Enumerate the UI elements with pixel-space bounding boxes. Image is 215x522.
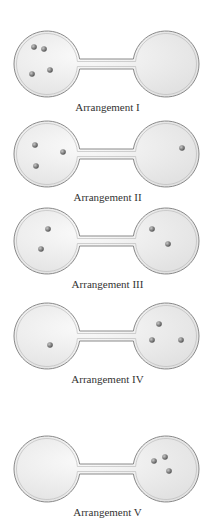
connected-bulbs-diagram: [0, 118, 215, 194]
gas-molecule: [41, 46, 47, 52]
gas-molecule: [179, 145, 185, 151]
glass-vessel: [14, 303, 199, 369]
arrangement-label: Arrangement IV: [0, 373, 215, 385]
gas-molecule: [149, 226, 155, 232]
gas-molecule: [60, 149, 66, 155]
connected-bulbs-diagram: [0, 28, 215, 104]
connected-bulbs-diagram: [0, 433, 215, 509]
gas-molecule: [32, 142, 38, 148]
gas-molecule: [47, 67, 53, 73]
gas-molecule: [166, 468, 172, 474]
gas-molecule: [162, 454, 168, 460]
arrangement-label: Arrangement I: [0, 101, 215, 113]
connected-bulbs-diagram: [0, 205, 215, 281]
arrangement-label: Arrangement III: [0, 278, 215, 290]
gas-molecule: [31, 44, 37, 50]
gas-molecule: [45, 226, 51, 232]
glass-vessel: [14, 121, 199, 187]
arrangement-panel: Arrangement IV: [0, 300, 215, 390]
arrangement-panel: Arrangement III: [0, 205, 215, 295]
gas-molecule: [151, 458, 157, 464]
arrangement-panel: Arrangement I: [0, 28, 215, 118]
gas-molecule: [165, 241, 171, 247]
glass-vessel: [14, 436, 199, 502]
gas-molecule: [149, 337, 155, 343]
gas-molecule: [178, 337, 184, 343]
gas-molecule: [47, 342, 53, 348]
gas-molecule: [38, 246, 44, 252]
glass-vessel: [14, 31, 199, 97]
glass-vessel: [14, 208, 199, 274]
connected-bulbs-diagram: [0, 300, 215, 376]
gas-molecule: [29, 71, 35, 77]
gas-molecule: [156, 321, 162, 327]
arrangement-label: Arrangement II: [0, 191, 215, 203]
arrangement-panel: Arrangement V: [0, 433, 215, 522]
arrangement-panel: Arrangement II: [0, 118, 215, 208]
arrangement-label: Arrangement V: [0, 506, 215, 518]
gas-molecule: [33, 163, 39, 169]
